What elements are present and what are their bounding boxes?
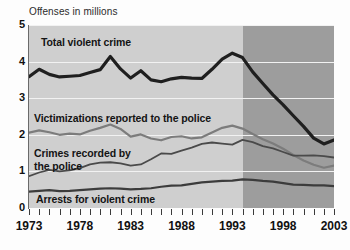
x-tick-1997 [273, 209, 274, 215]
x-tick-1987 [171, 209, 172, 215]
series-label-victimizations-reported: Victimizations reported to the police [34, 112, 211, 125]
x-tick-1989 [192, 209, 193, 215]
x-tick-label-1978: 1978 [66, 219, 93, 233]
x-tick-1994 [243, 209, 244, 215]
x-tick-label-2003: 2003 [321, 219, 348, 233]
x-tick-1996 [263, 209, 264, 215]
x-tick-label-1988: 1988 [168, 219, 195, 233]
x-tick-1995 [253, 209, 254, 215]
series-label-arrests: Arrests for violent crime [36, 193, 155, 206]
x-tick-1993 [232, 209, 233, 215]
y-tick-label-4: 4 [10, 56, 25, 67]
y-tick-label-0: 0 [10, 202, 25, 213]
chart-title: Offenses in millions [29, 6, 118, 17]
x-tick-1979 [90, 209, 91, 215]
x-tick-1983 [131, 209, 132, 215]
x-tick-1978 [80, 209, 81, 215]
x-tick-1981 [110, 209, 111, 215]
x-tick-1975 [49, 209, 50, 215]
x-tick-1974 [39, 209, 40, 215]
y-tick-label-3: 3 [10, 92, 25, 103]
crime-trends-chart: Offenses in millions 012345 197319781983… [0, 0, 350, 250]
x-tick-1990 [202, 209, 203, 215]
x-tick-label-1993: 1993 [219, 219, 246, 233]
x-tick-2002 [324, 209, 325, 215]
series-label-crimes-recorded: Crimes recorded by the police [34, 147, 131, 172]
x-tick-label-1998: 1998 [270, 219, 297, 233]
x-tick-1998 [283, 209, 284, 215]
x-tick-1985 [151, 209, 152, 215]
x-axis-ticks [29, 209, 334, 216]
x-tick-label-1983: 1983 [117, 219, 144, 233]
x-tick-1980 [100, 209, 101, 215]
y-axis [28, 25, 29, 209]
y-tick-label-1: 1 [10, 165, 25, 176]
x-tick-1984 [141, 209, 142, 215]
x-tick-1988 [182, 209, 183, 215]
x-tick-1977 [70, 209, 71, 215]
x-tick-1976 [60, 209, 61, 215]
y-tick-label-2: 2 [10, 129, 25, 140]
x-tick-2001 [314, 209, 315, 215]
x-tick-1991 [212, 209, 213, 215]
series-line-arrests-for-violent-crime [29, 179, 334, 191]
x-tick-1973 [29, 209, 30, 215]
x-tick-1999 [293, 209, 294, 215]
x-tick-label-1973: 1973 [16, 219, 43, 233]
x-tick-1992 [222, 209, 223, 215]
x-tick-1982 [121, 209, 122, 215]
y-tick-label-5: 5 [10, 19, 25, 30]
series-line-total-violent-crime [29, 53, 334, 144]
x-tick-1986 [161, 209, 162, 215]
series-label-total-violent-crime: Total violent crime [41, 36, 131, 49]
x-tick-2000 [304, 209, 305, 215]
x-tick-2003 [334, 209, 335, 215]
